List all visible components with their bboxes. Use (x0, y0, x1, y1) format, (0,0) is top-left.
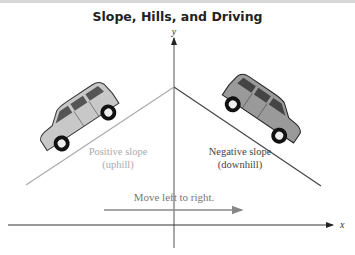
negative-slope-label: Negative slope (209, 146, 272, 157)
y-axis-label: y (171, 26, 177, 37)
slope-diagram: y x Positive slope (uphill) Negative slo… (0, 0, 355, 255)
x-axis: x (8, 219, 345, 230)
direction-label: Move left to right. (134, 191, 215, 203)
y-axis: y (171, 26, 177, 248)
positive-slope-label: Positive slope (89, 146, 148, 157)
car-downhill-icon (217, 70, 311, 151)
downhill-label: (downhill) (218, 159, 263, 171)
uphill-label: (uphill) (102, 159, 134, 171)
x-axis-label: x (339, 219, 345, 230)
